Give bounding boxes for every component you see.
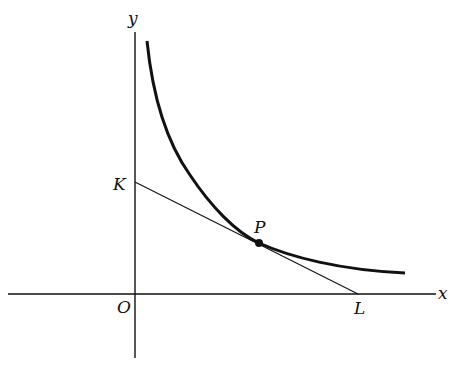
x-axis-label: x [438,285,448,302]
diagram-canvas [0,0,450,366]
point-k-label: K [113,176,126,193]
tangent-line [135,182,358,294]
point-p-marker [255,239,263,247]
hyperbola-curve [147,41,405,273]
y-axis-label: y [128,10,138,27]
origin-label: O [117,299,131,316]
point-l-label: L [354,300,365,317]
point-p-label: P [254,219,265,236]
